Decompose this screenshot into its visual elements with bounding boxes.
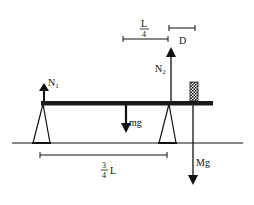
free-body-diagram: N1 N2 mg Mg L 4 D 3 4 L	[0, 0, 254, 205]
overhang-dimension	[169, 25, 195, 31]
left-support	[32, 104, 51, 143]
three-quarter-denominator: 4	[102, 171, 106, 180]
mg-label: mg	[129, 117, 142, 128]
block	[190, 82, 198, 101]
n1-label: N1	[48, 77, 59, 90]
quarter-length-numerator: L	[141, 18, 147, 29]
three-quarter-suffix: L	[110, 165, 116, 176]
n2-force-arrow	[166, 47, 176, 101]
overhang-label: D	[179, 35, 186, 46]
three-quarter-length-dimension	[40, 152, 167, 158]
block-weight-arrow	[188, 105, 198, 185]
quarter-length-denominator: 4	[142, 30, 146, 39]
n2-label: N2	[155, 63, 166, 76]
Mg-label: Mg	[196, 157, 210, 168]
right-support	[158, 104, 177, 143]
three-quarter-numerator: 3	[102, 161, 106, 170]
plank	[41, 101, 213, 106]
